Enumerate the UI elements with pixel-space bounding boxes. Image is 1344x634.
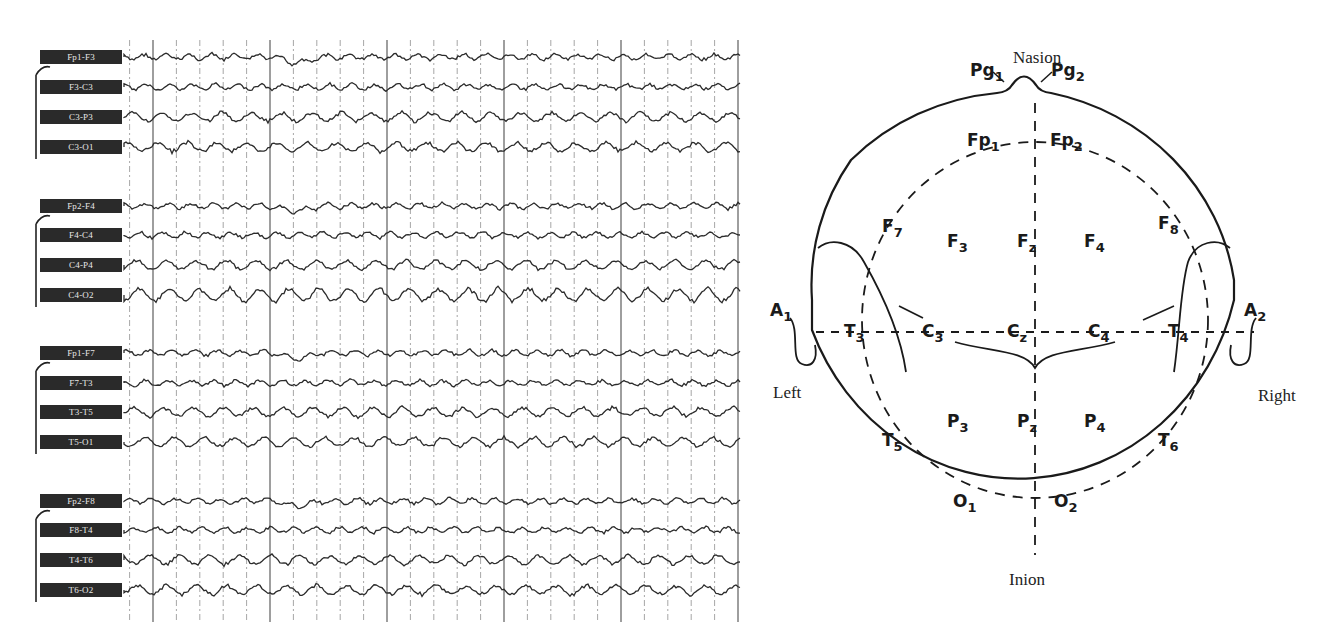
right-earlobe [1230,318,1256,365]
eeg-trace-fp1-f3 [124,53,740,66]
electrode-a1: A1 [770,302,792,323]
electrode-t6: T6 [1158,432,1179,453]
inion-label: Inion [1009,570,1045,590]
channel-label-f8-t4: F8-T4 [40,523,122,537]
eeg-trace-fp2-f8 [124,497,740,509]
channel-label-fp1-f7: Fp1-F7 [40,346,122,360]
eeg-montage-panel: Fp1-F3F3-C3C3-P3C3-O1Fp2-F4F4-C4C4-P4C4-… [0,0,760,634]
electrode-t4: T4 [1168,323,1189,344]
eeg-trace-fp1-f7 [124,349,740,361]
electrode-c3: C3 [922,323,944,344]
channel-label-t3-t5: T3-T5 [40,405,122,419]
channel-label-fp1-f3: Fp1-F3 [40,50,122,64]
channel-label-t4-t6: T4-T6 [40,553,122,567]
left-side-label: Left [773,383,801,403]
eeg-trace-c4-o2 [124,286,740,303]
electrode-c4: C4 [1088,323,1110,344]
eeg-trace-t5-o1 [124,436,740,448]
electrode-fp1: Fp1 [967,132,1000,153]
right-ear [1174,242,1230,372]
eeg-trace-f7-t3 [124,379,740,387]
nasion-label: Nasion [1013,48,1061,68]
channel-label-t5-o1: T5-O1 [40,435,122,449]
electrode-p4: P4 [1084,413,1106,434]
electrode-t3: T3 [844,323,865,344]
channel-label-t6-o2: T6-O2 [40,583,122,597]
eeg-trace-t6-o2 [124,584,740,597]
electrode-f4: F4 [1084,233,1105,254]
eeg-trace-f4-c4 [124,231,740,239]
channel-label-f4-c4: F4-C4 [40,228,122,242]
channel-label-f3-c3: F3-C3 [40,80,122,94]
eeg-trace-c3-p3 [124,111,740,123]
electrode-f8: F8 [1158,215,1179,236]
channel-label-c3-p3: C3-P3 [40,110,122,124]
right-side-label: Right [1258,386,1296,406]
electrode-fp2: Fp2 [1050,132,1083,153]
channel-label-c4-p4: C4-P4 [40,258,122,272]
electrode-p3: P3 [947,413,969,434]
electrode-a2: A2 [1244,302,1266,323]
electrode-o1: O1 [953,493,977,514]
eeg-traces [0,0,760,634]
electrode-pz: Pz [1017,413,1037,434]
electrode-f7: F7 [882,218,903,239]
electrode-t5: T5 [882,432,903,453]
channel-label-c4-o2: C4-O2 [40,288,122,302]
electrode-pg1: Pg1 [970,62,1004,83]
channel-label-f7-t3: F7-T3 [40,376,122,390]
channel-label-fp2-f4: Fp2-F4 [40,199,122,213]
eeg-trace-f8-t4 [124,526,740,534]
eeg-trace-t3-t5 [124,406,740,419]
eeg-trace-fp2-f4 [124,202,740,214]
eeg-trace-c3-o1 [124,141,740,154]
eeg-trace-t4-t6 [124,554,740,567]
electrode-fz: Fz [1017,233,1036,254]
channel-label-fp2-f8: Fp2-F8 [40,494,122,508]
electrode-placement-map: Pg1Pg2Fp1Fp2F7F3FzF4F8A1T3C3CzC4T4A2T5P3… [760,0,1344,634]
electrode-f3: F3 [947,233,968,254]
electrode-o2: O2 [1054,493,1078,514]
eeg-trace-f3-c3 [124,83,740,92]
channel-label-c3-o1: C3-O1 [40,140,122,154]
eeg-trace-c4-p4 [124,259,740,270]
electrode-cz: Cz [1007,323,1027,344]
